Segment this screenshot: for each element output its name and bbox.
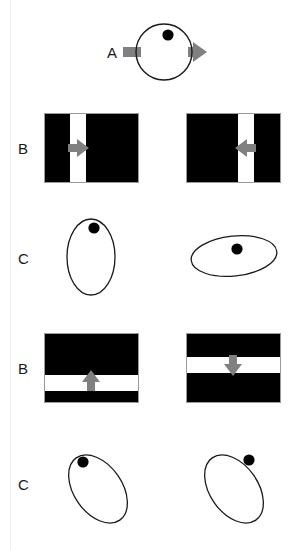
fixation-dot — [77, 456, 88, 467]
figure-panel: A B — [0, 0, 303, 550]
ellipse-horizontal-outline — [189, 232, 279, 281]
grating-background — [45, 114, 139, 183]
row-label-c-2: C — [18, 477, 29, 492]
panel-a-circle — [118, 18, 213, 90]
fixation-dot — [231, 243, 242, 254]
grating-background — [45, 334, 139, 403]
panel-b2-right — [186, 333, 281, 403]
fixation-dot — [162, 29, 173, 40]
ellipse-oblique-outline — [57, 444, 140, 534]
grating-background — [187, 114, 281, 183]
panel-b1-left — [44, 113, 139, 183]
row-label-a: A — [107, 45, 117, 60]
row-label-b-1: B — [18, 141, 28, 156]
panel-c1-left — [58, 211, 140, 303]
panel-c1-right — [184, 222, 284, 290]
ellipse-oblique-outline — [193, 444, 276, 534]
row-label-c-1: C — [18, 251, 29, 266]
fixation-dot — [88, 222, 99, 233]
panel-b1-right — [186, 113, 281, 183]
row-label-b-2: B — [18, 361, 28, 376]
panel-c2-left — [56, 440, 148, 540]
panel-c2-right — [192, 440, 284, 540]
fixation-dot — [243, 454, 254, 465]
left-margin-rule — [10, 0, 11, 550]
panel-b2-left — [44, 333, 139, 403]
